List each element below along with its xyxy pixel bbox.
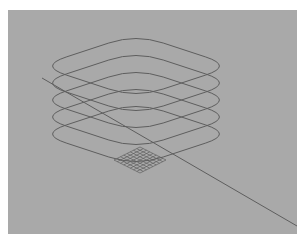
- coil-loop: [53, 90, 220, 145]
- coil-loop: [53, 39, 220, 94]
- coil-wireframe-drawing: [0, 0, 304, 245]
- coil-loop: [53, 73, 220, 128]
- diagonal-axis-line: [42, 78, 297, 226]
- coil-loop: [53, 107, 220, 162]
- coil-loop: [53, 56, 220, 111]
